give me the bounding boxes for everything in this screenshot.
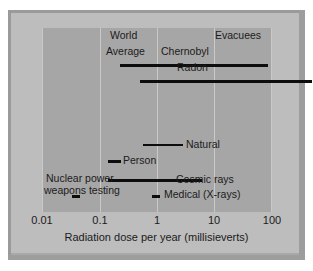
bar-chernobyl bbox=[140, 80, 312, 83]
figure-bevel-right bbox=[299, 10, 305, 260]
x-axis-title: Radiation dose per year (millisieverts) bbox=[0, 231, 313, 243]
label-medical-xrays: Medical (X-rays) bbox=[164, 189, 240, 200]
label-nuclear-power-line1: Nuclear power bbox=[46, 172, 114, 184]
label-radon: Radon bbox=[177, 62, 208, 73]
figure-bevel-bottom bbox=[8, 255, 305, 260]
xtick-label-3: 10 bbox=[208, 214, 220, 226]
label-evacuees: Evacuees bbox=[215, 30, 261, 41]
label-average: Average bbox=[106, 46, 145, 57]
xtick-label-4: 100 bbox=[263, 214, 281, 226]
label-cosmic-rays: Cosmic rays bbox=[176, 174, 234, 185]
label-person: Person bbox=[123, 155, 156, 166]
bar-medical-xrays bbox=[152, 195, 160, 198]
label-world: World bbox=[110, 30, 137, 41]
label-weapons-testing-line2: weapons testing bbox=[44, 184, 120, 196]
gridline-1 bbox=[157, 28, 158, 212]
gridline-0.01 bbox=[42, 28, 43, 212]
gridline-100 bbox=[271, 28, 272, 212]
figure-bevel-left bbox=[8, 10, 11, 260]
bar-person bbox=[108, 160, 121, 163]
label-chernobyl: Chernobyl bbox=[161, 46, 209, 57]
xtick-label-2: 1 bbox=[154, 214, 160, 226]
figure-bevel-top bbox=[8, 10, 305, 13]
bar-natural bbox=[143, 144, 183, 146]
label-natural: Natural bbox=[186, 139, 220, 150]
xtick-label-1: 0.1 bbox=[92, 214, 107, 226]
xtick-label-0: 0.01 bbox=[31, 214, 52, 226]
radiation-dose-chart-figure: World Evacuees Average Chernobyl Radon N… bbox=[0, 0, 313, 271]
